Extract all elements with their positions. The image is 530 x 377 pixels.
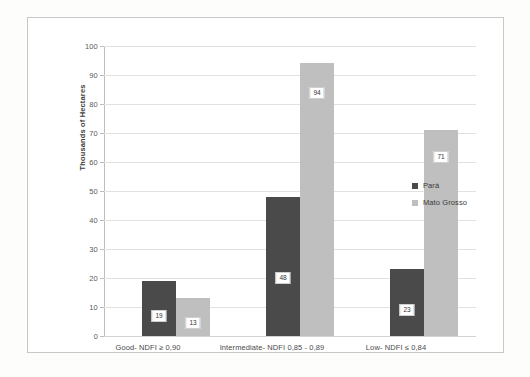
y-tick-50: 50 xyxy=(89,187,98,196)
x-axis-label-intermediate: Intermediate- NDFI 0,85 - 0,89 xyxy=(220,343,325,352)
x-axis-label-low: Low- NDFI ≤ 0,84 xyxy=(366,343,426,352)
chart-figure-frame: Thousands of Hectares 100 90 80 70 60 50… xyxy=(27,17,504,353)
legend-item-para[interactable]: Pará xyxy=(412,181,467,190)
bar-value-mato-grosso-good: 13 xyxy=(185,317,200,330)
y-tick-70: 70 xyxy=(89,129,98,138)
legend-item-mato-grosso[interactable]: Mato Grosso xyxy=(412,198,467,207)
bar-group-good: 19 13 xyxy=(132,46,228,336)
bar-value-para-intermediate: 48 xyxy=(275,272,290,285)
bar-value-para-low: 23 xyxy=(399,304,414,317)
gridline-baseline-0 xyxy=(104,336,476,337)
bar-value-mato-grosso-intermediate: 94 xyxy=(309,87,324,100)
bar-para-intermediate[interactable]: 48 xyxy=(266,197,300,336)
legend-swatch-icon-para xyxy=(412,183,418,189)
scanned-page-background: Thousands of Hectares 100 90 80 70 60 50… xyxy=(0,0,530,377)
chart-legend: Pará Mato Grosso xyxy=(412,181,467,215)
legend-label-mato-grosso: Mato Grosso xyxy=(423,198,467,207)
bar-para-low[interactable]: 23 xyxy=(390,269,424,336)
legend-swatch-icon-mato-grosso xyxy=(412,200,418,206)
y-tick-30: 30 xyxy=(89,245,98,254)
bar-value-para-good: 19 xyxy=(151,310,166,323)
y-tick-40: 40 xyxy=(89,216,98,225)
bar-value-mato-grosso-low: 71 xyxy=(433,151,448,164)
y-tick-90: 90 xyxy=(89,71,98,80)
y-tick-0: 0 xyxy=(94,332,98,341)
bar-group-intermediate: 48 94 xyxy=(256,46,352,336)
y-tick-60: 60 xyxy=(89,158,98,167)
bar-mato-grosso-intermediate[interactable]: 94 xyxy=(300,63,334,336)
bar-mato-grosso-low[interactable]: 71 xyxy=(424,130,458,336)
legend-label-para: Pará xyxy=(423,181,439,190)
y-tick-10: 10 xyxy=(89,303,98,312)
bar-para-good[interactable]: 19 xyxy=(142,281,176,336)
bar-mato-grosso-good[interactable]: 13 xyxy=(176,298,210,336)
y-axis-tick-labels: 100 90 80 70 60 50 40 30 20 10 0 xyxy=(72,46,98,336)
y-tick-20: 20 xyxy=(89,274,98,283)
x-axis-label-good: Good- NDFI ≥ 0,90 xyxy=(115,343,180,352)
y-tick-100: 100 xyxy=(85,42,98,51)
y-tick-80: 80 xyxy=(89,100,98,109)
